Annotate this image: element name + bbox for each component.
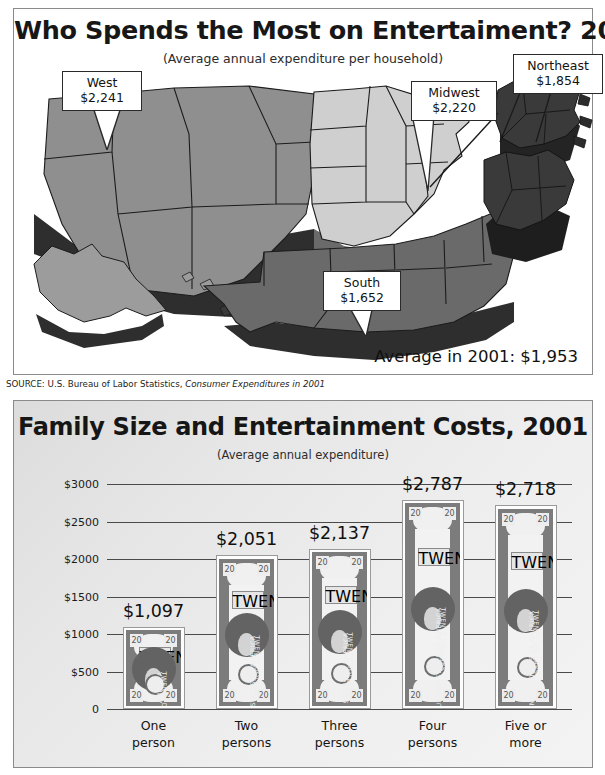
callout-west: West $2,241 [62, 71, 142, 111]
infographic-page: Who Spends the Most on Entertaiment? 200… [0, 0, 605, 775]
chart-plot-area: $3000$2500$2000$1500$1000$5000TWENTY2020… [107, 484, 572, 709]
source-line: SOURCE: U.S. Bureau of Labor Statistics,… [6, 379, 325, 389]
y-axis-tick-label: $2500 [64, 515, 99, 528]
callout-west-value: $2,241 [70, 90, 134, 105]
x-axis-label-line: persons [222, 735, 271, 752]
bar-value-label: $1,097 [123, 601, 184, 621]
bar: TWENTY20202020UNITED STATES OF AMERICATW… [123, 627, 185, 709]
source-prefix: SOURCE: U.S. Bureau of Labor Statistics, [6, 379, 185, 389]
x-axis-category-label: Fourpersons [408, 718, 457, 752]
bar-value-label: $2,137 [309, 523, 370, 543]
callout-south: South $1,652 [323, 271, 401, 311]
callout-midwest-value: $2,220 [419, 100, 489, 115]
map-panel: Who Spends the Most on Entertaiment? 200… [13, 8, 593, 375]
y-axis-tick-label: $3000 [64, 478, 99, 491]
bar: TWENTY20202020UNITED STATES OF AMERICATW… [402, 500, 464, 709]
callout-west-name: West [70, 75, 134, 90]
y-axis-tick-label: 0 [92, 703, 99, 716]
twenty-dollar-bill-icon: TWENTY20202020UNITED STATES OF AMERICATW… [312, 552, 367, 705]
x-axis-label-line: Two [222, 718, 271, 735]
northeast-callout-tail [494, 86, 594, 144]
y-axis-tick-label: $2000 [64, 553, 99, 566]
callout-northeast-value: $1,854 [521, 73, 595, 88]
callout-northeast: Northeast $1,854 [513, 54, 603, 94]
map-title: Who Spends the Most on Entertaiment? 200… [14, 15, 592, 45]
bar-value-label: $2,718 [495, 479, 556, 499]
x-axis-label-line: persons [408, 735, 457, 752]
callout-northeast-name: Northeast [521, 58, 595, 73]
x-axis-label-line: Four [408, 718, 457, 735]
map-average-label: Average in 2001: $1,953 [374, 347, 578, 366]
x-axis-category-label: Twopersons [222, 718, 271, 752]
x-axis-category-label: Threepersons [315, 718, 364, 752]
x-axis-label-line: One [132, 718, 175, 735]
bar: TWENTY20202020UNITED STATES OF AMERICATW… [309, 549, 371, 709]
twenty-dollar-bill-icon: TWENTY20202020UNITED STATES OF AMERICATW… [219, 559, 274, 706]
west-callout-tail [90, 104, 124, 150]
alaska-extrusion [36, 314, 164, 348]
x-axis-label-line: persons [315, 735, 364, 752]
x-axis-label-line: Five or [505, 718, 547, 735]
x-axis-label-line: more [505, 735, 547, 752]
callout-midwest-name: Midwest [419, 85, 489, 100]
y-axis-tick-label: $1000 [64, 628, 99, 641]
callout-south-name: South [331, 275, 393, 290]
bar-value-label: $2,051 [216, 529, 277, 549]
twenty-dollar-bill-icon: TWENTY20202020UNITED STATES OF AMERICATW… [405, 503, 460, 705]
bar-value-label: $2,787 [402, 474, 463, 494]
x-axis-category-label: Oneperson [132, 718, 175, 752]
bar: TWENTY20202020UNITED STATES OF AMERICATW… [495, 505, 557, 709]
source-title: Consumer Expenditures in 2001 [185, 379, 325, 389]
x-axis-label-line: person [132, 735, 175, 752]
chart-subtitle: (Average annual expenditure) [14, 448, 592, 462]
callout-midwest: Midwest $2,220 [411, 81, 497, 121]
x-axis-category-label: Five ormore [505, 718, 547, 752]
twenty-dollar-bill-icon: TWENTY20202020UNITED STATES OF AMERICATW… [498, 509, 553, 706]
bar: TWENTY20202020UNITED STATES OF AMERICATW… [216, 555, 278, 709]
y-axis-tick-label: $1500 [64, 590, 99, 603]
x-axis-label-line: Three [315, 718, 364, 735]
gridline [107, 709, 572, 710]
midwest-callout-tail [394, 113, 502, 193]
callout-south-value: $1,652 [331, 290, 393, 305]
chart-panel: Family Size and Entertainment Costs, 200… [13, 400, 593, 768]
y-axis-tick-label: $500 [71, 665, 99, 678]
chart-title: Family Size and Entertainment Costs, 200… [14, 413, 592, 441]
twenty-dollar-bill-icon: TWENTY20202020UNITED STATES OF AMERICATW… [126, 630, 181, 705]
